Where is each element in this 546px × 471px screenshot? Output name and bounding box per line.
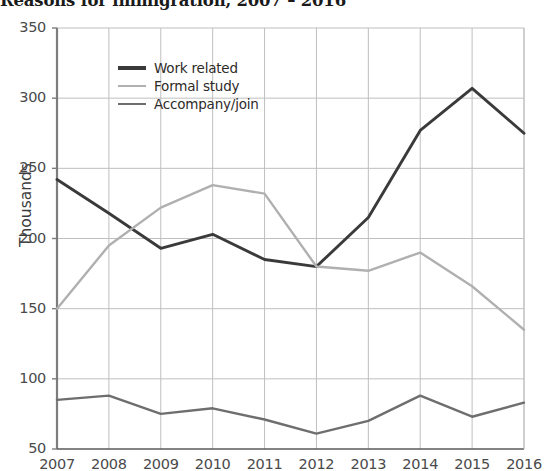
series-line-accompany-join <box>57 396 524 434</box>
legend-item: Accompany/join <box>118 96 259 112</box>
legend-item: Work related <box>118 60 259 76</box>
series-line-formal-study <box>57 185 524 330</box>
chart-legend: Work relatedFormal studyAccompany/join <box>118 60 259 114</box>
legend-label: Accompany/join <box>154 96 259 112</box>
data-series-lines <box>57 88 524 433</box>
legend-label: Formal study <box>154 78 239 94</box>
legend-color-swatch <box>118 85 146 88</box>
series-line-work-related <box>57 88 524 266</box>
legend-color-swatch <box>118 66 146 69</box>
legend-label: Work related <box>154 60 238 76</box>
legend-color-swatch <box>118 103 146 106</box>
legend-item: Formal study <box>118 78 259 94</box>
